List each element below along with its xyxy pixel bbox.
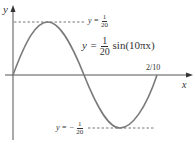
lower-bound-prefix: y = − [56, 123, 74, 132]
y-axis-label: y [3, 3, 8, 15]
equation-den: 20 [100, 47, 110, 57]
x-axis-arrow-icon [186, 73, 193, 78]
x-tick-label: 2/10 [146, 63, 160, 72]
x-axis-label: x [182, 79, 186, 90]
lower-bound-label: y = − 120 [56, 121, 83, 136]
upper-bound-label: y = 120 [88, 14, 108, 29]
upper-bound-prefix: y = [88, 16, 99, 25]
equation-prefix: y = [82, 39, 97, 51]
equation-suffix: sin(10πx) [113, 39, 155, 51]
y-axis-arrow-icon [11, 5, 16, 12]
lower-bound-den: 20 [76, 129, 83, 136]
upper-bound-den: 20 [101, 22, 108, 29]
equation-label: y = 120 sin(10πx) [82, 36, 155, 57]
